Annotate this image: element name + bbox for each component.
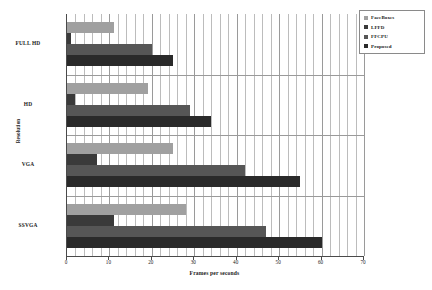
x-axis-tick-label: 0 [53, 259, 79, 265]
bar [67, 215, 114, 226]
bar-row [67, 165, 364, 176]
bar-row [67, 55, 364, 66]
bar [67, 176, 300, 187]
legend-swatch-icon [364, 16, 368, 20]
y-axis-tick-label: SSVGA [0, 222, 58, 228]
bar-row [67, 94, 364, 105]
bar [67, 94, 75, 105]
bar [67, 105, 190, 116]
bar-row [67, 44, 364, 55]
bar-row [67, 143, 364, 154]
legend-swatch-icon [364, 35, 368, 39]
bar-row [67, 105, 364, 116]
legend-swatch-icon [364, 44, 368, 48]
legend-label: LFFD [371, 25, 384, 30]
bar-row [67, 33, 364, 44]
bar [67, 33, 71, 44]
legend-item: Proposed [364, 44, 421, 49]
bar-row [67, 204, 364, 215]
legend-label: FaceBoxes [371, 15, 394, 20]
bar-row [67, 22, 364, 33]
legend-item: FFCPU [364, 34, 421, 39]
x-axis-tick-label: 50 [265, 259, 291, 265]
bar-chart: Resolution FULL HDHDVGASSVGA 01020304050… [0, 0, 432, 290]
bar-group [67, 75, 364, 136]
bar-row [67, 215, 364, 226]
x-axis-tick-label: 70 [350, 259, 376, 265]
bar-row [67, 176, 364, 187]
bar [67, 116, 211, 127]
bar-row [67, 237, 364, 248]
bar-group [67, 135, 364, 196]
bar [67, 237, 322, 248]
bar [67, 204, 186, 215]
y-axis-tick-label: FULL HD [0, 40, 58, 46]
x-axis-tick-label: 20 [138, 259, 164, 265]
bar [67, 226, 266, 237]
bar [67, 143, 173, 154]
legend: FaceBoxesLFFDFFCPUProposed [359, 10, 425, 54]
bar-group [67, 196, 364, 257]
bar-row [67, 116, 364, 127]
x-axis-tick-label: 30 [180, 259, 206, 265]
legend-label: Proposed [371, 44, 392, 49]
legend-label: FFCPU [371, 34, 388, 39]
legend-item: LFFD [364, 25, 421, 30]
legend-item: FaceBoxes [364, 15, 421, 20]
x-axis-tick-label: 10 [95, 259, 121, 265]
legend-swatch-icon [364, 25, 368, 29]
bar [67, 55, 173, 66]
bar-row [67, 226, 364, 237]
bar [67, 44, 152, 55]
bar-group [67, 14, 364, 75]
x-axis-tick-label: 40 [223, 259, 249, 265]
bar-row [67, 154, 364, 165]
bar-row [67, 83, 364, 94]
y-axis-tick-label: VGA [0, 161, 58, 167]
bar [67, 83, 148, 94]
bar [67, 22, 114, 33]
bar [67, 154, 97, 165]
x-axis-title: Frames per seconds [66, 270, 363, 276]
y-axis-tick-label: HD [0, 101, 58, 107]
plot-area [66, 14, 364, 257]
bar [67, 165, 245, 176]
x-axis-tick-label: 60 [308, 259, 334, 265]
